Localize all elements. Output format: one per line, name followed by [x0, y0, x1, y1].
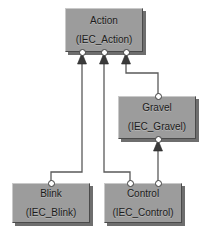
- connection-port-action-right[interactable]: [123, 49, 130, 56]
- node-title-gravel: Gravel: [142, 102, 171, 114]
- node-title-control: Control: [127, 188, 159, 200]
- node-stereotype-gravel: (IEC_Gravel): [128, 121, 186, 133]
- connection-port-blink-top[interactable]: [48, 180, 55, 187]
- uml-class-node-blink[interactable]: Blink (IEC_Blink): [12, 183, 90, 223]
- edge-gravel-to-action[interactable]: [126, 62, 158, 96]
- connection-port-control-left[interactable]: [127, 180, 134, 187]
- edge-blink-to-action[interactable]: [51, 62, 82, 183]
- node-title-blink: Blink: [40, 188, 62, 200]
- connection-port-control-right[interactable]: [155, 180, 162, 187]
- node-title-action: Action: [90, 15, 118, 27]
- connection-port-gravel-bottom[interactable]: [155, 136, 162, 143]
- node-stereotype-blink: (IEC_Blink): [26, 207, 77, 219]
- node-stereotype-action: (IEC_Action): [76, 34, 133, 46]
- uml-class-node-control[interactable]: Control (IEC_Control): [104, 183, 182, 223]
- uml-diagram-canvas: Action (IEC_Action) Gravel (IEC_Gravel) …: [0, 0, 208, 239]
- node-stereotype-control: (IEC_Control): [112, 207, 173, 219]
- connection-port-action-left[interactable]: [79, 49, 86, 56]
- uml-class-node-gravel[interactable]: Gravel (IEC_Gravel): [118, 96, 196, 139]
- uml-class-node-action[interactable]: Action (IEC_Action): [65, 8, 143, 52]
- connection-port-action-center[interactable]: [101, 49, 108, 56]
- connection-port-gravel-top[interactable]: [155, 93, 162, 100]
